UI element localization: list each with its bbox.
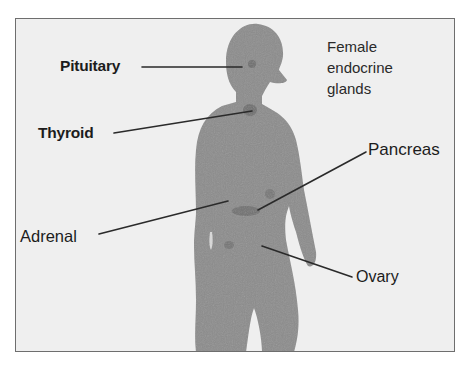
title-line-3: glands xyxy=(327,78,393,99)
label-ovary: Ovary xyxy=(356,268,399,286)
ovary-spot xyxy=(224,241,234,249)
label-thyroid: Thyroid xyxy=(38,124,93,142)
pituitary-spot xyxy=(248,60,256,68)
thyroid-spot xyxy=(243,104,257,116)
label-adrenal: Adrenal xyxy=(20,227,77,245)
label-pancreas: Pancreas xyxy=(368,141,440,159)
adrenal-spot xyxy=(265,189,275,199)
title-line-1: Female xyxy=(327,36,393,57)
pancreas-spot xyxy=(232,206,260,216)
title-line-2: endocrine xyxy=(327,57,393,78)
female-silhouette-illustration xyxy=(0,0,464,365)
diagram-title: Female endocrine glands xyxy=(327,36,393,99)
label-pituitary: Pituitary xyxy=(60,57,120,75)
